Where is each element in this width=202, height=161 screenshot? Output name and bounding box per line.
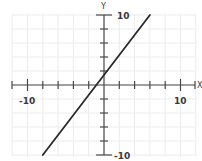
y-tick-label-max: 10 (117, 11, 130, 21)
x-axis-name: X (197, 81, 202, 90)
coordinate-plane-chart: X Y -10 10 10 -10 (0, 0, 202, 161)
y-tick-label-min: -10 (114, 151, 130, 161)
x-tick-label-max: 10 (174, 96, 187, 106)
axes (12, 15, 195, 155)
x-tick-label-min: -10 (19, 96, 35, 106)
y-axis-name: Y (100, 2, 106, 11)
